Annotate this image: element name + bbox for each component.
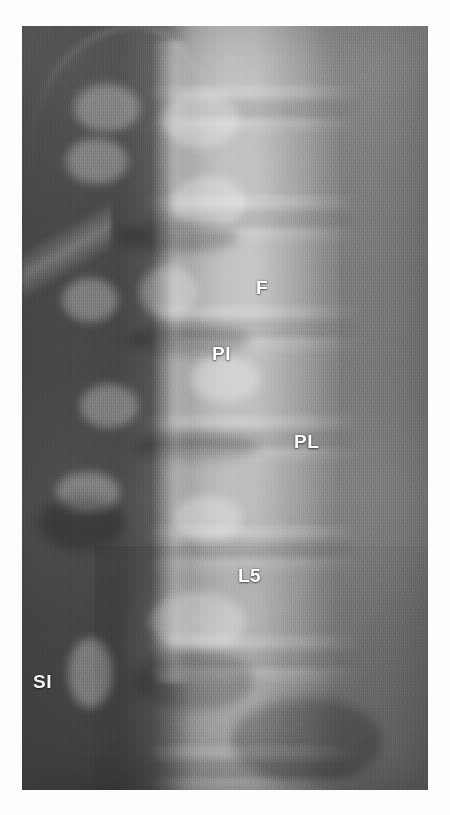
soft-tissue-pelvis-shadow [232, 698, 382, 784]
radiograph-image: FPIPLL5SI [22, 26, 428, 790]
annotation-label-facet-joint: F [256, 278, 268, 297]
bone-feature-sacral-ala [150, 592, 246, 650]
soft-tissue-bowel-gas-lower [134, 650, 254, 710]
ischial-ramus-streak [22, 167, 111, 335]
annotation-label-pars-interarticularis: PI [212, 344, 231, 363]
iliac-crest-arc [22, 26, 224, 176]
bone-feature-facet-lower [80, 384, 138, 428]
annotation-label-sacroiliac-joint: SI [33, 672, 52, 691]
soft-tissue-bowel-gas-left [38, 496, 124, 550]
page-background: FPIPLL5SI [0, 0, 450, 815]
bone-feature-si-joint-edge [68, 638, 112, 708]
sacrum-region [95, 546, 428, 790]
soft-tissue-disc-space-2 [126, 326, 250, 354]
bone-feature-l5-pedicle [174, 496, 242, 540]
bone-feature-transverse-process [56, 472, 120, 512]
annotation-label-pedicle-lamina: PL [294, 432, 319, 451]
bone-feature-facet-mid [140, 266, 198, 318]
soft-tissue-disc-space-1 [118, 222, 238, 252]
soft-tissue-disc-space-3 [132, 434, 260, 460]
bone-feature-pedicle-right-2 [172, 176, 246, 230]
annotation-label-l5-vertebra: L5 [238, 566, 261, 585]
